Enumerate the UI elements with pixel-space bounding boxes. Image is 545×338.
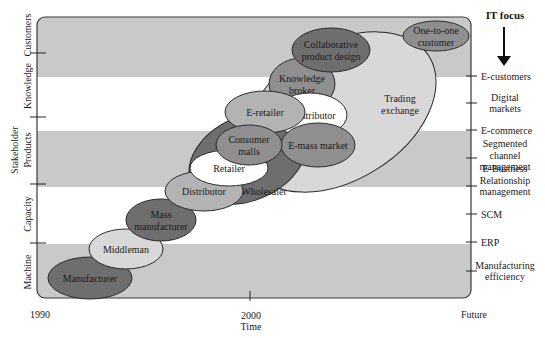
it-focus-line: E-customers <box>481 71 531 82</box>
y-level-machine: Machine <box>22 254 33 290</box>
y-axis-labels: Customers Knowledge Products Stakeholder… <box>9 14 33 290</box>
node-label: Collaborativeproduct design <box>301 39 360 62</box>
x-axis-title: Time <box>241 321 262 332</box>
node-label-line: exchange <box>381 105 419 116</box>
node-label-line: Middleman <box>103 244 149 255</box>
node-label-line: product design <box>301 51 360 62</box>
it-focus-label-6: ERP <box>481 237 500 248</box>
it-focus-line: markets <box>489 103 521 114</box>
node-label: Middleman <box>103 244 149 255</box>
node-label-line: manufacturer <box>134 221 188 232</box>
node-label-line: E-mass market <box>288 140 348 151</box>
it-focus-line: Segmented <box>483 138 527 149</box>
node-consumer-malls: Consumermalls <box>216 125 282 165</box>
it-focus-label-2: E-commerce <box>481 125 533 136</box>
it-focus-line: channel <box>489 150 520 161</box>
it-focus-label-5: SCM <box>481 209 502 220</box>
node-label: One-to-onecustomer <box>413 25 459 48</box>
it-focus-label-7: Manufacturingefficiency <box>475 260 534 283</box>
node-collaborative-product-design: Collaborativeproduct design <box>292 28 370 72</box>
y-level-capacity: Capacity <box>22 196 33 232</box>
x-tick-1990: 1990 <box>30 309 50 320</box>
y-level-knowledge: Knowledge <box>22 62 33 109</box>
node-label-line: customer <box>418 37 455 48</box>
it-focus-line: ERP <box>481 237 500 248</box>
it-focus-line: efficiency <box>485 271 525 282</box>
node-label: Wholesaler <box>241 186 287 197</box>
node-label: E-retailer <box>246 107 284 118</box>
node-label-line: Knowledge <box>279 73 326 84</box>
y-axis-title: Stakeholder <box>9 125 20 173</box>
node-label-line: Distributor <box>182 186 227 197</box>
node-label-line: malls <box>238 146 260 157</box>
x-tick-future: Future <box>461 309 488 320</box>
it-focus-line: Digital <box>491 92 519 103</box>
node-label-line: Wholesaler <box>241 186 287 197</box>
it-focus-label-4: E-BusinessRelationshipmanagement <box>479 163 530 197</box>
it-focus-line: management <box>479 186 530 197</box>
node-one-to-one-customer: One-to-onecustomer <box>403 21 469 51</box>
y-level-customers: Customers <box>22 14 33 57</box>
node-label-line: Mass <box>150 209 171 220</box>
down-arrow-icon <box>497 27 511 66</box>
node-label: Manufacturer <box>63 273 118 284</box>
node-label-line: Collaborative <box>304 39 359 50</box>
node-label: Distributor <box>182 186 227 197</box>
node-label-line: Consumer <box>228 134 270 145</box>
it-focus-title: IT focus <box>486 9 525 21</box>
node-e-mass-market: E-mass market <box>281 123 355 167</box>
node-label-line: Manufacturer <box>63 273 118 284</box>
node-label: E-mass market <box>288 140 348 151</box>
it-focus-label-1: Digitalmarkets <box>489 92 521 115</box>
it-focus-line: Manufacturing <box>475 260 534 271</box>
it-focus-line: E-Business <box>483 163 528 174</box>
it-focus-labels: E-customersDigitalmarketsE-commerceSegme… <box>475 71 534 283</box>
it-focus-line: E-commerce <box>481 125 533 136</box>
stakeholder-it-focus-diagram: Customers Knowledge Products Stakeholder… <box>0 0 545 338</box>
node-label-line: One-to-one <box>413 25 459 36</box>
node-label-line: E-retailer <box>246 107 284 118</box>
x-tick-2000-label: 2000 <box>241 310 261 321</box>
it-focus-line: SCM <box>481 209 502 220</box>
it-focus-line: Relationship <box>480 175 531 186</box>
node-label: Tradingexchange <box>381 93 419 116</box>
node-label-line: Trading <box>384 93 415 104</box>
it-focus-label-0: E-customers <box>481 71 531 82</box>
y-level-products: Products <box>22 132 33 167</box>
